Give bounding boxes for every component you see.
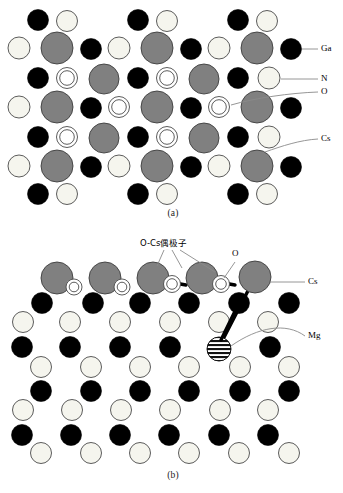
atom-n [31, 443, 52, 464]
panel-a-lattice [8, 10, 302, 205]
atom-ga [83, 293, 104, 314]
atom-n [57, 11, 78, 32]
atom-ga [160, 337, 181, 358]
atom-n [258, 400, 279, 421]
atom-ga [181, 98, 202, 119]
atom-ga [128, 10, 149, 31]
atom-ga [179, 381, 200, 402]
atom-n [13, 312, 34, 333]
panel-a-caption: (a) [143, 208, 203, 218]
atom-cs [141, 32, 173, 64]
atom-ga [281, 98, 302, 119]
figure-root: (a) (b) Ga N O Cs O-Cs偶极子 O Cs Mg [0, 0, 343, 493]
atom-n [179, 357, 200, 378]
atom-cs [141, 91, 173, 123]
atom-ga [258, 425, 279, 446]
atom-n [110, 312, 131, 333]
atom-cs [241, 150, 273, 182]
atom-ga [181, 39, 202, 60]
atom-ga [228, 10, 249, 31]
atom-n [160, 312, 181, 333]
atom-o [164, 276, 181, 293]
atom-ga [130, 293, 151, 314]
atom-ga [12, 337, 33, 358]
legend-label-o-b: O [232, 248, 239, 258]
atom-n [210, 400, 231, 421]
atom-n [108, 37, 130, 59]
atom-n [81, 443, 102, 464]
atom-n [279, 443, 300, 464]
atom-ga [28, 10, 49, 31]
atom-o [157, 127, 178, 148]
atom-n [108, 155, 130, 177]
atom-n [208, 37, 230, 59]
atom-n [179, 443, 200, 464]
legend-label-ga: Ga [321, 43, 332, 53]
atom-ga [228, 68, 249, 89]
atom-ga [81, 381, 102, 402]
atom-o [57, 68, 78, 89]
atom-o [209, 97, 230, 118]
atom-ga [32, 293, 53, 314]
leader-dipole-2 [172, 250, 182, 268]
atom-cs [186, 262, 218, 294]
atom-n [57, 184, 78, 205]
atom-cs [41, 91, 73, 123]
atom-ga [179, 293, 200, 314]
atom-n [8, 96, 30, 118]
legend-label-mg: Mg [308, 330, 321, 340]
atom-ga [28, 184, 49, 205]
atom-n [62, 400, 83, 421]
legend-label-o: O [321, 86, 328, 96]
atom-n [257, 184, 278, 205]
atom-n [160, 400, 181, 421]
atom-n [130, 357, 151, 378]
atom-ga [128, 68, 149, 89]
atom-n [8, 155, 30, 177]
atom-ga [31, 381, 52, 402]
legend-label-cs: Cs [321, 133, 331, 143]
atom-cs [189, 123, 219, 153]
atom-ga [279, 381, 300, 402]
atom-ga [279, 293, 300, 314]
atom-ga [61, 425, 82, 446]
atom-cs [89, 64, 119, 94]
atom-cs [189, 64, 219, 94]
atom-ga [260, 337, 281, 358]
atom-o [109, 97, 130, 118]
atom-n [157, 184, 178, 205]
atom-ga [110, 425, 131, 446]
panel-b-caption: (b) [143, 470, 203, 480]
atom-ga [209, 425, 230, 446]
atom-n [258, 126, 280, 148]
atom-o [114, 279, 130, 295]
atom-ga [110, 337, 131, 358]
atom-ga [81, 98, 102, 119]
legend-label-cs-b: Cs [308, 276, 318, 286]
leader-o-b [224, 262, 235, 278]
atom-n [81, 357, 102, 378]
atom-n [31, 357, 52, 378]
atom-ga [230, 381, 251, 402]
atom-cs [141, 150, 173, 182]
atom-ga [60, 337, 81, 358]
atom-ga [28, 127, 49, 148]
atom-cs [241, 91, 273, 123]
atom-ga [28, 68, 49, 89]
atom-ga [81, 157, 102, 178]
atom-ga [128, 184, 149, 205]
atom-ga [228, 184, 249, 205]
atom-n [258, 67, 280, 89]
atom-ga [12, 425, 33, 446]
atom-n [13, 400, 34, 421]
atom-n [257, 11, 278, 32]
atom-o [213, 276, 230, 293]
atom-o [57, 127, 78, 148]
atom-n [8, 37, 30, 59]
atom-ga [159, 425, 180, 446]
atom-n [279, 357, 300, 378]
atom-n [157, 11, 178, 32]
atom-n [230, 357, 251, 378]
atom-ga [181, 157, 202, 178]
atom-ga [281, 157, 302, 178]
